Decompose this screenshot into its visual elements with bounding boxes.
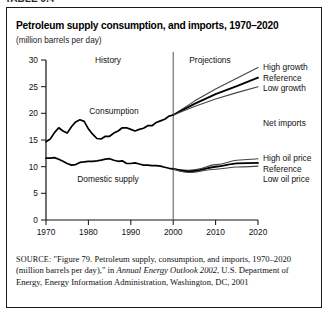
series-line-consumption-low-growth	[173, 87, 258, 115]
line-chart-svg: 30 25 20 15 10 5 0 1970 1980 1990 2000 2…	[16, 52, 312, 248]
legend-label-low-oil-price: Low oil price	[263, 174, 310, 184]
x-tick-label-2010: 2010	[206, 227, 225, 237]
figure-title: Petroleum supply consumption, and import…	[16, 20, 312, 31]
legend-label-domestic-reference: Reference	[263, 164, 302, 174]
y-tick-label-25: 25	[29, 82, 39, 92]
legend-label-high-growth: High growth	[263, 62, 308, 72]
y-tick-label-15: 15	[29, 135, 39, 145]
x-tick-label-1970: 1970	[37, 227, 56, 237]
series-line-consumption-history	[46, 115, 173, 142]
y-tick-label-20: 20	[29, 108, 39, 118]
figure-units-label: (million barrels per day)	[16, 36, 102, 45]
x-tick-label-1990: 1990	[121, 227, 140, 237]
source-note-label: SOURCE:	[16, 255, 51, 264]
annotation-projections: Projections	[189, 55, 230, 65]
y-tick-label-5: 5	[33, 188, 38, 198]
x-tick-label-2020: 2020	[249, 227, 268, 237]
figure-card: Petroleum supply consumption, and import…	[6, 7, 322, 308]
source-note: SOURCE: "Figure 79. Petroleum supply, co…	[16, 254, 311, 288]
chart-plot-area: 30 25 20 15 10 5 0 1970 1980 1990 2000 2…	[16, 52, 312, 248]
annotation-net-imports: Net imports	[263, 118, 306, 128]
legend-label-low-growth: Low growth	[263, 83, 306, 93]
legend-label-high-oil-price: High oil price	[263, 153, 312, 163]
annotation-history: History	[95, 55, 122, 65]
x-tick-label-2000: 2000	[164, 227, 183, 237]
legend-label-consumption-reference: Reference	[263, 73, 302, 83]
annotation-domestic-supply: Domestic supply	[77, 174, 139, 184]
source-note-publication: Annual Energy Outlook 2002	[116, 265, 217, 275]
x-axis-ticks	[46, 220, 258, 225]
x-tick-label-1980: 1980	[79, 227, 98, 237]
y-axis-ticks	[41, 60, 46, 220]
series-line-domestic-supply-history	[46, 158, 173, 169]
y-tick-label-30: 30	[29, 55, 39, 65]
y-tick-label-0: 0	[33, 215, 38, 225]
y-tick-label-10: 10	[29, 162, 39, 172]
clipped-header-text: TABLE 6.4	[5, 0, 54, 4]
annotation-consumption: Consumption	[89, 106, 139, 116]
clipped-header-strip: TABLE 6.4	[0, 0, 330, 5]
series-line-domestic-high-oil-price	[173, 159, 258, 170]
